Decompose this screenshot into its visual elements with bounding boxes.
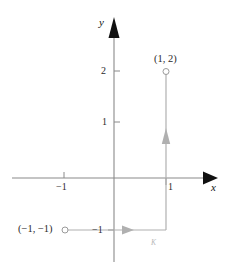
y-axis-arrow-icon bbox=[109, 17, 120, 38]
path-direction-arrow-right-icon bbox=[122, 226, 134, 235]
y-tick-label-2: 2 bbox=[101, 66, 106, 76]
coordinate-plane-figure: y x 2 1 −1 −1 1 (1, 2) (−1, −1) K bbox=[0, 0, 233, 272]
open-circle-marker-start bbox=[62, 227, 68, 233]
point-label-start: (−1, −1) bbox=[18, 224, 53, 235]
x-tick-label-1: 1 bbox=[168, 182, 173, 192]
x-tick-label-neg1: −1 bbox=[56, 182, 67, 192]
y-axis-label: y bbox=[99, 17, 104, 28]
point-label-end: (1, 2) bbox=[154, 54, 177, 65]
x-axis-label: x bbox=[211, 182, 216, 193]
curve-label: K bbox=[151, 239, 156, 247]
path-direction-arrow-up-icon bbox=[162, 128, 170, 144]
y-tick-label-neg1: −1 bbox=[92, 225, 103, 235]
open-circle-marker-end bbox=[163, 69, 169, 75]
y-tick-label-1: 1 bbox=[102, 117, 107, 127]
